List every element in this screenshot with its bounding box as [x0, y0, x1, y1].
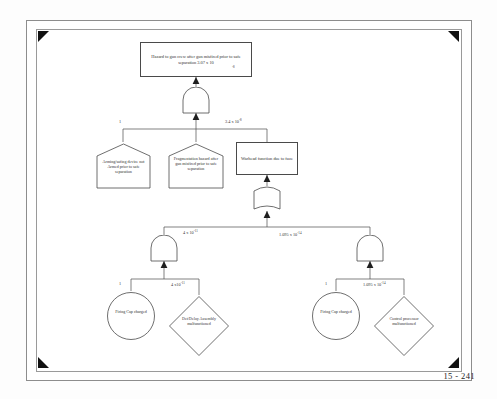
probability-diamond-left-exp: -11	[181, 281, 185, 285]
probability-diamond-right-exp: -14	[381, 281, 385, 285]
undeveloped-event-control-processor: Control processor malfunctioned	[373, 295, 435, 357]
fault-tree-diagram: Hazard to gun crew after gun misfired pr…	[36, 29, 460, 370]
warhead-function-label: Warhead function due to fuze	[239, 156, 295, 161]
probability-diamond-left-base: 4 x10	[171, 282, 181, 287]
top-event-label: Hazard to gun crew after gun misfired pr…	[141, 54, 251, 64]
probability-gate-right-exp: -14	[297, 231, 301, 235]
probability-gate-right: 1.095 x 10-14	[279, 231, 302, 237]
top-event-exponent-value: -8	[232, 65, 235, 69]
basic-event-firing-cap-right-label: Firing Cap charged	[311, 310, 361, 315]
probability-gate-left-exp: -11	[194, 229, 198, 233]
probability-diamond-right-base: 1.095 x 10	[363, 282, 381, 287]
house-event-fragmentation: Fragmentation hazard after gun misfired …	[167, 142, 225, 190]
or-gate-warhead	[251, 184, 283, 212]
probability-warhead-base: 3.4 x 10	[225, 119, 239, 124]
and-gate-right	[354, 235, 386, 263]
probability-diamond-right: 1.095 x 10-14	[363, 281, 386, 287]
probability-circle-right: 1	[325, 281, 327, 286]
probability-gate-left: 4 x 10-11	[183, 229, 198, 235]
and-gate-top	[180, 87, 212, 115]
house-event-fragmentation-label: Fragmentation hazard after gun misfired …	[167, 157, 225, 172]
and-gate-left	[148, 235, 180, 263]
top-event-exponent: -8	[232, 65, 235, 71]
undeveloped-event-det-delay: Det/Delay Assembly malfunctioned	[168, 295, 230, 357]
scanned-page: Hazard to gun crew after gun misfired pr…	[0, 0, 497, 399]
probability-diamond-left: 4 x10-11	[171, 281, 185, 287]
basic-event-firing-cap-left: Firing Cap charged	[106, 291, 156, 341]
basic-event-firing-cap-left-label: Firing Cap charged	[106, 310, 156, 315]
probability-warhead-exp: -8	[239, 118, 242, 122]
probability-warhead: 3.4 x 10-8	[225, 118, 242, 124]
probability-house-1: 1	[119, 119, 121, 124]
probability-gate-left-base: 4 x 10	[183, 230, 194, 235]
warhead-function-box: Warhead function due to fuze	[236, 142, 298, 175]
undeveloped-event-det-delay-label: Det/Delay Assembly malfunctioned	[168, 317, 230, 327]
probability-gate-right-base: 1.095 x 10	[279, 232, 297, 237]
house-event-arming-safing-label: Arming/safing device not Armed prior to …	[95, 160, 152, 175]
probability-circle-left: 1	[119, 281, 121, 286]
basic-event-firing-cap-right: Firing Cap charged	[311, 291, 361, 341]
page-number: 15 - 241	[443, 371, 475, 381]
undeveloped-event-control-processor-label: Control processor malfunctioned	[373, 317, 435, 327]
top-event-box: Hazard to gun crew after gun misfired pr…	[140, 42, 252, 77]
house-event-arming-safing: Arming/safing device not Armed prior to …	[95, 142, 152, 190]
